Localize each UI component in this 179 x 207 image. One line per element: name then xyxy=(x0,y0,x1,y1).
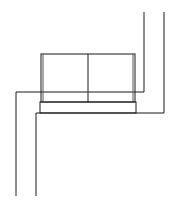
outer-wall-line xyxy=(16,12,144,196)
sofa xyxy=(40,54,136,113)
inner-wall-line xyxy=(36,12,164,196)
sofa-plan-diagram xyxy=(0,0,179,207)
sofa-base xyxy=(40,102,136,113)
